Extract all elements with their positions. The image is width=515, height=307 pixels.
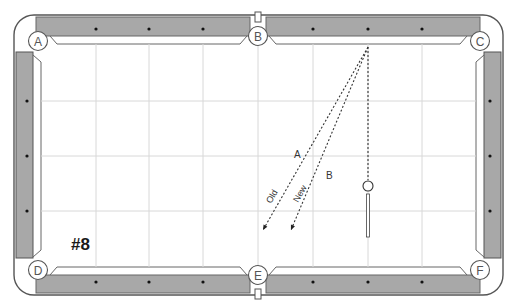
pocket-a: A bbox=[29, 32, 48, 51]
diamond-marker bbox=[25, 154, 28, 157]
diamond-marker bbox=[420, 280, 423, 283]
diamond-marker bbox=[25, 99, 28, 102]
pocket-label: F bbox=[476, 264, 483, 278]
diamond-marker bbox=[420, 27, 423, 30]
top-rail-left bbox=[36, 17, 250, 36]
pocket-label: E bbox=[254, 269, 262, 283]
pocket-c: C bbox=[471, 32, 490, 51]
pocket-b: B bbox=[249, 27, 268, 46]
diamond-marker bbox=[488, 154, 491, 157]
bottom-rail-right bbox=[266, 275, 480, 293]
diamond-marker bbox=[488, 99, 491, 102]
pool-table-diagram: ABCDEF A B Old New #8 bbox=[0, 0, 515, 307]
diamond-marker bbox=[311, 280, 314, 283]
diamond-marker bbox=[311, 27, 314, 30]
diamond-marker bbox=[366, 280, 369, 283]
right-rail bbox=[484, 52, 501, 258]
diamond-marker bbox=[366, 27, 369, 30]
top-rail-right bbox=[266, 17, 480, 36]
diamond-marker bbox=[201, 280, 204, 283]
shot-point-label-a: A bbox=[294, 149, 301, 160]
bottom-rail-left bbox=[36, 275, 250, 293]
pocket-f: F bbox=[471, 261, 490, 280]
pocket-label: C bbox=[476, 35, 485, 49]
pocket-label: B bbox=[254, 30, 262, 44]
cue-stick bbox=[367, 194, 370, 237]
pocket-d: D bbox=[29, 261, 48, 280]
diagram-number: #8 bbox=[71, 235, 90, 254]
diamond-marker bbox=[94, 27, 97, 30]
diamond-marker bbox=[147, 280, 150, 283]
diamond-marker bbox=[201, 27, 204, 30]
diamond-marker bbox=[147, 27, 150, 30]
shot-point-label-b: B bbox=[326, 170, 333, 181]
pocket-e: E bbox=[249, 266, 268, 285]
pocket-label: A bbox=[34, 35, 42, 49]
left-rail bbox=[16, 52, 33, 258]
diamond-marker bbox=[25, 209, 28, 212]
pocket-label: D bbox=[34, 264, 43, 278]
cue-ball bbox=[363, 181, 373, 191]
diamond-marker bbox=[94, 280, 97, 283]
diamond-marker bbox=[488, 209, 491, 212]
